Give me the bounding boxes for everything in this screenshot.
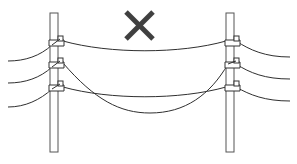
top-wire [63,41,226,51]
right-pole [225,13,240,152]
power-line-diagram [0,0,297,164]
diagram-canvas: Incorrect: sagging power line between tw… [0,0,297,164]
span-wires [63,41,228,113]
wire-attachments [52,39,236,89]
middle-wire-sagging [63,63,228,113]
left-pole [49,13,64,152]
right-outer-wires [236,41,290,101]
incorrect-x-icon [126,12,153,39]
left-outer-wires [8,45,52,107]
